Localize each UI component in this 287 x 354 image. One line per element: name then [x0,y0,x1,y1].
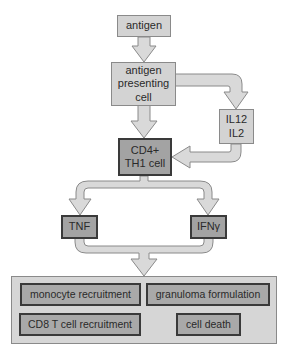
antigen-box: antigen [117,15,171,37]
th1-cell-label: TH1 cell [125,157,165,170]
ifn-gamma-box: IFNγ [190,215,227,239]
cell-death-label: cell death [186,318,231,331]
antigen-label: antigen [126,19,162,32]
arrow-apc-to-il [175,74,248,109]
cell-death-box: cell death [176,313,241,336]
ifn-gamma-label: IFNγ [197,220,220,233]
arrow-il-to-cd4 [172,144,241,168]
apc-label-line2: presenting [118,77,169,90]
cd4-th1-cell-box: CD4+ TH1 cell [118,138,172,176]
tnf-label: TNF [69,220,90,233]
il12-il2-box: IL12 IL2 [219,109,254,144]
antigen-presenting-cell-box: antigen presenting cell [111,62,176,106]
monocyte-recruitment-label: monocyte recruitment [30,288,131,301]
cd8-t-cell-recruitment-label: CD8 T cell recruitment [28,318,132,331]
granuloma-formulation-box: granuloma formulation [146,283,270,306]
il12-label: IL12 [226,113,247,126]
cd4-label: CD4+ [131,144,159,157]
arrow-antigen-to-apc [132,37,156,62]
il2-label: IL2 [229,127,244,140]
tnf-box: TNF [61,215,98,239]
arrow-apc-to-cd4 [131,105,157,138]
arrow-merge-to-outcomes [75,238,213,276]
granuloma-formulation-label: granuloma formulation [156,288,260,301]
apc-label-line1: antigen [125,64,161,77]
monocyte-recruitment-box: monocyte recruitment [20,283,141,306]
cd8-t-cell-recruitment-box: CD8 T cell recruitment [19,313,141,336]
apc-label-line3: cell [135,91,152,104]
arrow-cd4-split [69,176,219,215]
